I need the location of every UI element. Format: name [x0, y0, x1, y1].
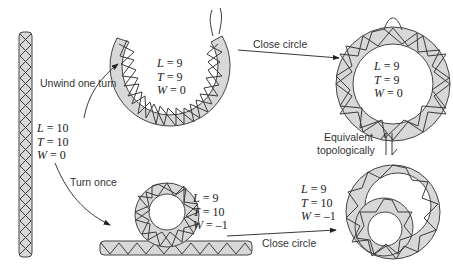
state-looped-values: L = 9 T = 10 W = –1	[193, 192, 228, 233]
linear-dna-rod	[19, 32, 32, 257]
writhe: W = –1	[193, 219, 228, 233]
linking-number: L = 9	[374, 60, 403, 74]
writhe: W = 0	[157, 84, 186, 98]
writhe: W = 0	[37, 149, 68, 163]
twist: T = 9	[157, 71, 186, 85]
linking-number: L = 10	[37, 122, 68, 136]
linking-number: L = 9	[301, 183, 336, 197]
writhe: W = 0	[374, 87, 403, 101]
twist: T = 10	[37, 136, 68, 150]
arrow-close-top	[238, 50, 339, 58]
closed-supercoiled-circle	[346, 165, 440, 259]
twist: T = 10	[301, 197, 336, 211]
arrow-close-bottom	[227, 230, 336, 236]
label-unwind: Unwind one turn	[40, 77, 116, 89]
label-close-bottom: Close circle	[262, 237, 316, 249]
label-turn: Turn once	[70, 176, 117, 188]
label-close-top: Close circle	[253, 38, 307, 50]
state-open-values: L = 9 T = 9 W = 0	[157, 57, 186, 98]
state-closed-relaxed-values: L = 9 T = 9 W = 0	[374, 60, 403, 101]
label-equivalent-line1: Equivalent	[317, 131, 375, 144]
twist: T = 10	[193, 206, 228, 220]
writhe: W = –1	[301, 210, 336, 224]
arrow-turn	[55, 163, 110, 225]
label-equivalent: Equivalent topologically	[317, 131, 375, 157]
twist: T = 9	[374, 74, 403, 88]
label-equivalent-line2: topologically	[317, 144, 375, 157]
state-supercoiled-values: L = 9 T = 10 W = –1	[301, 183, 336, 224]
linking-number: L = 9	[157, 57, 186, 71]
linking-number: L = 9	[193, 192, 228, 206]
state-linear-values: L = 10 T = 10 W = 0	[37, 122, 68, 163]
looped-linear-dna	[100, 183, 252, 255]
